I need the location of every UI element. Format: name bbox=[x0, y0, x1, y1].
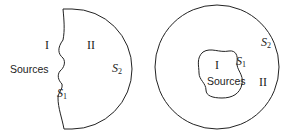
left-s1-label: S1 bbox=[57, 87, 67, 101]
right-s1-label: S1 bbox=[236, 55, 246, 69]
left-s2-label: S2 bbox=[112, 62, 122, 76]
right-region-i-label: I bbox=[215, 59, 219, 71]
left-surface-s1-wavy bbox=[58, 9, 64, 129]
right-sources-label: Sources bbox=[207, 76, 246, 87]
right-region-ii-label: II bbox=[259, 76, 267, 88]
right-s2-label: S2 bbox=[261, 36, 271, 50]
left-region-i-label: I bbox=[45, 39, 49, 51]
left-region-ii-label: II bbox=[87, 39, 95, 51]
left-sources-label: Sources bbox=[10, 64, 49, 75]
